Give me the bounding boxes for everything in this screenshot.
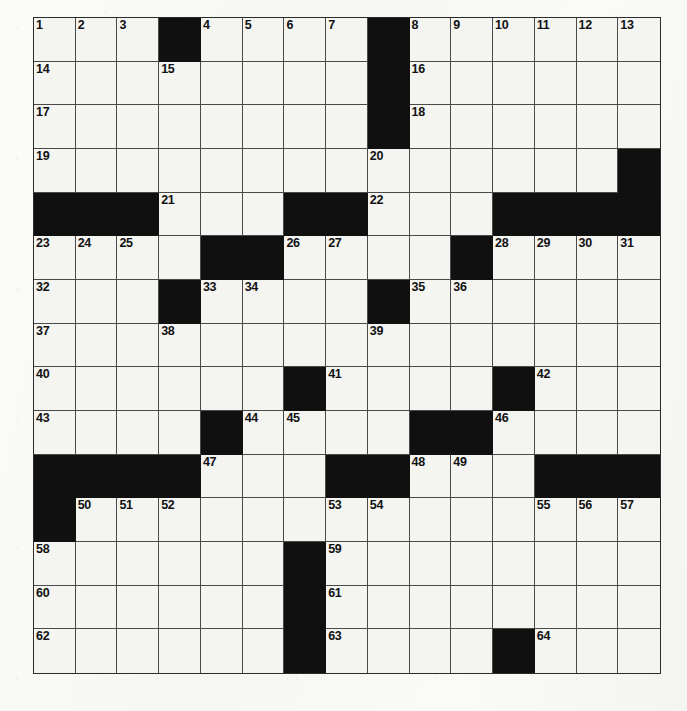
grid-cell-numbered[interactable]: 63 [326, 629, 368, 673]
grid-cell[interactable] [326, 280, 368, 324]
grid-cell[interactable] [577, 280, 619, 324]
grid-cell[interactable] [201, 62, 243, 106]
grid-cell[interactable] [535, 105, 577, 149]
grid-cell-numbered[interactable]: 33 [201, 280, 243, 324]
grid-cell-numbered[interactable]: 9 [451, 18, 493, 62]
grid-cell[interactable] [243, 498, 285, 542]
grid-cell[interactable] [451, 367, 493, 411]
grid-cell-numbered[interactable]: 46 [493, 411, 535, 455]
grid-cell-numbered[interactable]: 55 [535, 498, 577, 542]
grid-cell[interactable] [577, 149, 619, 193]
grid-cell[interactable] [243, 105, 285, 149]
grid-cell[interactable] [368, 586, 410, 630]
grid-cell[interactable] [451, 586, 493, 630]
grid-cell-numbered[interactable]: 61 [326, 586, 368, 630]
grid-cell[interactable] [451, 62, 493, 106]
grid-cell[interactable] [76, 367, 118, 411]
grid-cell[interactable] [159, 149, 201, 193]
grid-cell-numbered[interactable]: 64 [535, 629, 577, 673]
grid-cell[interactable] [493, 455, 535, 499]
grid-cell-numbered[interactable]: 52 [159, 498, 201, 542]
grid-cell[interactable] [577, 629, 619, 673]
grid-cell-numbered[interactable]: 60 [34, 586, 76, 630]
grid-cell[interactable] [493, 498, 535, 542]
grid-cell[interactable] [618, 629, 660, 673]
grid-cell[interactable] [577, 62, 619, 106]
grid-cell[interactable] [159, 367, 201, 411]
grid-cell[interactable] [284, 280, 326, 324]
grid-cell[interactable] [159, 629, 201, 673]
grid-cell[interactable] [535, 586, 577, 630]
grid-cell[interactable] [535, 542, 577, 586]
grid-cell[interactable] [284, 324, 326, 368]
grid-cell[interactable] [326, 62, 368, 106]
grid-cell-numbered[interactable]: 57 [618, 498, 660, 542]
grid-cell[interactable] [243, 193, 285, 237]
grid-cell[interactable] [243, 324, 285, 368]
grid-cell[interactable] [326, 149, 368, 193]
grid-cell-numbered[interactable]: 39 [368, 324, 410, 368]
grid-cell-numbered[interactable]: 27 [326, 236, 368, 280]
grid-cell[interactable] [117, 586, 159, 630]
grid-cell[interactable] [243, 629, 285, 673]
grid-cell-numbered[interactable]: 21 [159, 193, 201, 237]
grid-cell[interactable] [451, 193, 493, 237]
grid-cell[interactable] [284, 105, 326, 149]
grid-cell[interactable] [201, 105, 243, 149]
grid-cell-numbered[interactable]: 26 [284, 236, 326, 280]
grid-cell[interactable] [618, 62, 660, 106]
grid-cell[interactable] [493, 280, 535, 324]
grid-cell[interactable] [535, 280, 577, 324]
grid-cell[interactable] [117, 62, 159, 106]
grid-cell[interactable] [159, 542, 201, 586]
grid-cell[interactable] [201, 324, 243, 368]
grid-cell-numbered[interactable]: 31 [618, 236, 660, 280]
grid-cell-numbered[interactable]: 16 [410, 62, 452, 106]
grid-cell-numbered[interactable]: 36 [451, 280, 493, 324]
grid-cell-numbered[interactable]: 54 [368, 498, 410, 542]
grid-cell-numbered[interactable]: 48 [410, 455, 452, 499]
grid-cell[interactable] [201, 367, 243, 411]
grid-cell-numbered[interactable]: 20 [368, 149, 410, 193]
grid-cell[interactable] [451, 105, 493, 149]
grid-cell[interactable] [368, 629, 410, 673]
grid-cell[interactable] [243, 367, 285, 411]
grid-cell[interactable] [117, 411, 159, 455]
grid-cell-numbered[interactable]: 53 [326, 498, 368, 542]
grid-cell[interactable] [493, 542, 535, 586]
grid-cell-numbered[interactable]: 24 [76, 236, 118, 280]
grid-cell-numbered[interactable]: 34 [243, 280, 285, 324]
grid-cell-numbered[interactable]: 11 [535, 18, 577, 62]
grid-cell-numbered[interactable]: 50 [76, 498, 118, 542]
grid-cell[interactable] [451, 542, 493, 586]
grid-cell-numbered[interactable]: 17 [34, 105, 76, 149]
grid-cell-numbered[interactable]: 44 [243, 411, 285, 455]
grid-cell[interactable] [410, 367, 452, 411]
grid-cell-numbered[interactable]: 47 [201, 455, 243, 499]
grid-cell[interactable] [76, 629, 118, 673]
grid-cell-numbered[interactable]: 40 [34, 367, 76, 411]
grid-cell[interactable] [284, 149, 326, 193]
grid-cell[interactable] [159, 586, 201, 630]
grid-cell-numbered[interactable]: 58 [34, 542, 76, 586]
grid-cell-numbered[interactable]: 59 [326, 542, 368, 586]
grid-cell[interactable] [243, 455, 285, 499]
grid-cell[interactable] [326, 324, 368, 368]
grid-cell[interactable] [243, 62, 285, 106]
grid-cell-numbered[interactable]: 30 [577, 236, 619, 280]
grid-cell[interactable] [201, 586, 243, 630]
grid-cell-numbered[interactable]: 1 [34, 18, 76, 62]
grid-cell[interactable] [243, 586, 285, 630]
grid-cell-numbered[interactable]: 5 [243, 18, 285, 62]
grid-cell[interactable] [618, 367, 660, 411]
grid-cell-numbered[interactable]: 3 [117, 18, 159, 62]
grid-cell-numbered[interactable]: 6 [284, 18, 326, 62]
grid-cell-numbered[interactable]: 7 [326, 18, 368, 62]
grid-cell[interactable] [410, 498, 452, 542]
grid-cell[interactable] [493, 586, 535, 630]
grid-cell[interactable] [76, 324, 118, 368]
grid-cell[interactable] [535, 149, 577, 193]
grid-cell[interactable] [117, 105, 159, 149]
grid-cell[interactable] [117, 367, 159, 411]
grid-cell[interactable] [243, 149, 285, 193]
